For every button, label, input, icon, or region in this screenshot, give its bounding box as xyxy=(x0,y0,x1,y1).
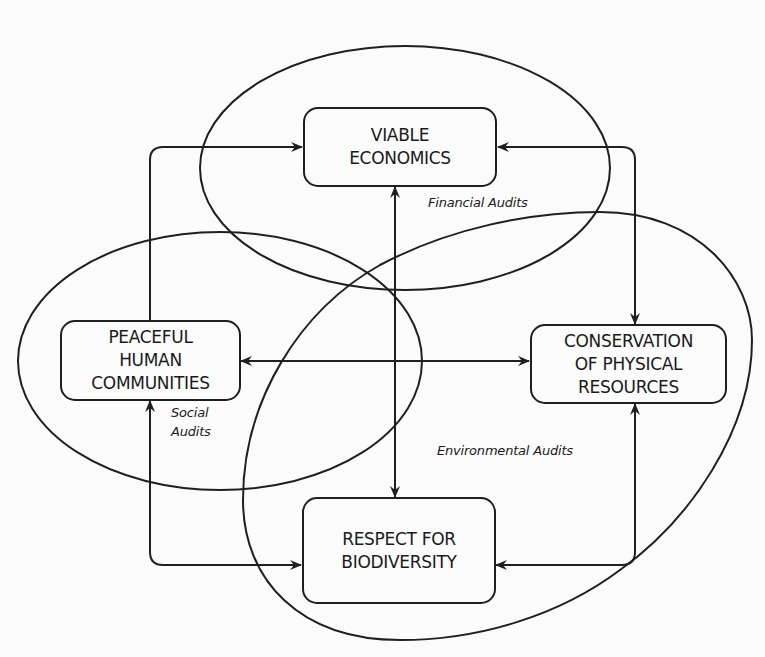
node-viable-economics: VIABLE ECONOMICS xyxy=(303,107,497,187)
edge-peaceful-to-viable xyxy=(150,147,302,320)
financial-audits-label: Financial Audits xyxy=(428,193,528,212)
sustainability-audit-diagram: VIABLE ECONOMICS PEACEFUL HUMAN COMMUNIT… xyxy=(0,0,765,657)
social-audits-label-line1: Social xyxy=(171,403,211,422)
node-label: COMMUNITIES xyxy=(91,372,209,395)
environmental-audits-label: Environmental Audits xyxy=(437,441,573,460)
node-label: BIODIVERSITY xyxy=(341,551,456,574)
node-label: RESPECT FOR xyxy=(342,528,456,551)
node-label: VIABLE xyxy=(371,124,429,147)
node-respect-biodiversity: RESPECT FOR BIODIVERSITY xyxy=(302,497,496,604)
social-audits-label-line2: Audits xyxy=(171,422,211,441)
node-conservation-physical-resources: CONSERVATION OF PHYSICAL RESOURCES xyxy=(530,324,727,404)
node-label: CONSERVATION xyxy=(564,330,693,353)
node-peaceful-human-communities: PEACEFUL HUMAN COMMUNITIES xyxy=(60,320,241,401)
node-label: ECONOMICS xyxy=(349,147,451,170)
node-label: PEACEFUL xyxy=(108,326,192,349)
edge-conservation-viable xyxy=(498,147,635,324)
node-label: OF PHYSICAL xyxy=(575,353,682,376)
edge-conservation-biodiversity xyxy=(496,404,635,565)
node-label: HUMAN xyxy=(119,349,182,372)
social-audits-label: Social Audits xyxy=(171,403,211,441)
node-label: RESOURCES xyxy=(578,376,679,399)
